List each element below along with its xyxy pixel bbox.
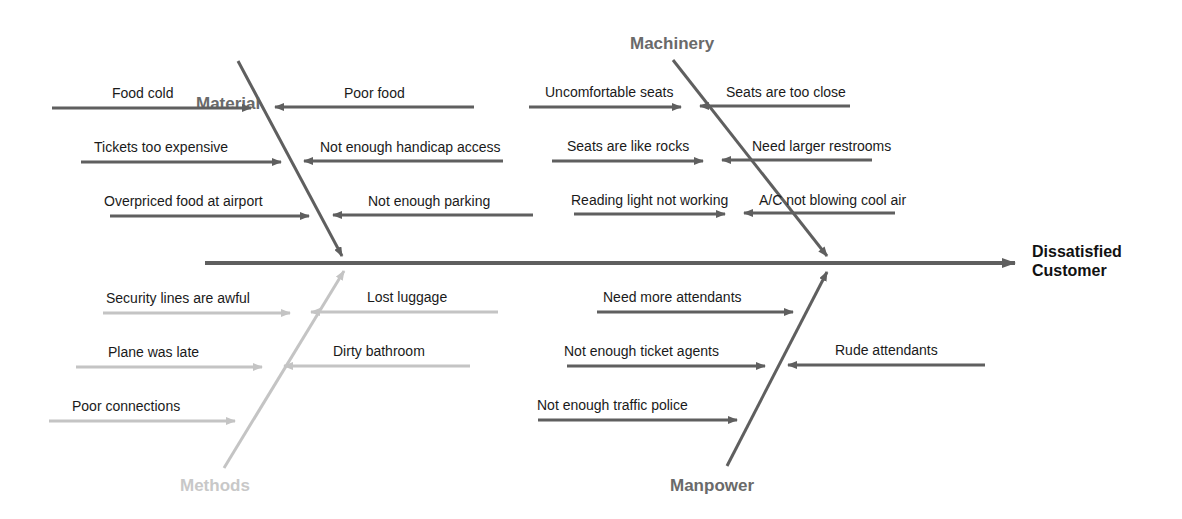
cause-label: Security lines are awful <box>106 290 250 306</box>
category-material: Material Food cold Tickets too expensive… <box>52 61 533 256</box>
category-label-machinery: Machinery <box>630 34 715 53</box>
category-label-material: Material <box>196 94 260 113</box>
effect-label: Dissatisfied Customer <box>1032 243 1122 279</box>
cause-label: Not enough parking <box>368 193 490 209</box>
cause-label: Uncomfortable seats <box>545 84 673 100</box>
bone-manpower <box>727 272 827 466</box>
cause-label: Not enough ticket agents <box>564 343 719 359</box>
bone-material <box>238 61 342 256</box>
cause-label: Food cold <box>112 85 173 101</box>
cause-label: Tickets too expensive <box>94 139 228 155</box>
cause-label: Poor food <box>344 85 405 101</box>
cause-label: Dirty bathroom <box>333 343 425 359</box>
effect-line-2: Customer <box>1032 262 1107 279</box>
cause-label: Need more attendants <box>603 289 742 305</box>
cause-label: Not enough traffic police <box>537 397 688 413</box>
cause-label: Seats are like rocks <box>567 138 689 154</box>
cause-label: Overpriced food at airport <box>104 193 263 209</box>
cause-label: Lost luggage <box>367 289 447 305</box>
cause-label: Poor connections <box>72 398 180 414</box>
fishbone-diagram: Dissatisfied Customer Material Food cold… <box>0 0 1182 519</box>
cause-label: Seats are too close <box>726 84 846 100</box>
category-methods: Methods Security lines are awful Plane w… <box>49 271 498 495</box>
cause-label: Not enough handicap access <box>320 139 501 155</box>
category-manpower: Manpower Need more attendants Not enough… <box>537 272 985 495</box>
cause-label: Plane was late <box>108 344 199 360</box>
cause-label: Rude attendants <box>835 342 938 358</box>
category-label-manpower: Manpower <box>670 476 754 495</box>
cause-label: Reading light not working <box>571 192 728 208</box>
category-machinery: Machinery Uncomfortable seats Seats are … <box>529 34 906 256</box>
category-label-methods: Methods <box>180 476 250 495</box>
cause-label: Need larger restrooms <box>752 138 891 154</box>
cause-label: A/C not blowing cool air <box>759 192 906 208</box>
effect-line-1: Dissatisfied <box>1032 243 1122 260</box>
